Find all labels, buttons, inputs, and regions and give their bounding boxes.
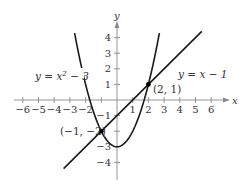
axes [14,24,226,180]
x-tick-label: 5 [192,104,198,115]
x-axis-label: x [232,95,238,106]
y-tick-label: 2 [105,63,111,74]
y-tick-label: −4 [96,157,111,168]
line-equation-label: y = x − 1 [177,68,227,80]
intersection-point-2-1 [146,82,151,87]
x-tick-label: 6 [208,104,214,115]
x-tick-label: 4 [177,104,183,115]
point-label-neg1-neg2: (−1, −2) [60,125,106,137]
x-axis-arrow-icon [223,98,230,103]
y-axis-arrow-icon [115,21,120,28]
x-tick-label: 1 [130,104,136,115]
parabola-equation-label: y = x2 − 3 [34,70,89,82]
y-tick-label: 4 [105,32,111,43]
x-tick-label: −3 [63,104,78,115]
y-tick-label: 1 [105,79,111,90]
x-tick-label: −4 [47,104,62,115]
chart-canvas: −6−5−4−3−21234564321−1−3−4 x y y = x2 − … [0,0,241,186]
y-tick-label: −1 [96,110,111,121]
x-tick-label: 3 [161,104,167,115]
y-tick-label: 3 [105,48,111,59]
x-tick-label: 2 [145,104,151,115]
point-label-2-1: (2, 1) [153,83,181,95]
x-tick-label: −6 [15,104,30,115]
x-tick-label: −5 [31,104,46,115]
y-axis-label: y [113,10,120,21]
